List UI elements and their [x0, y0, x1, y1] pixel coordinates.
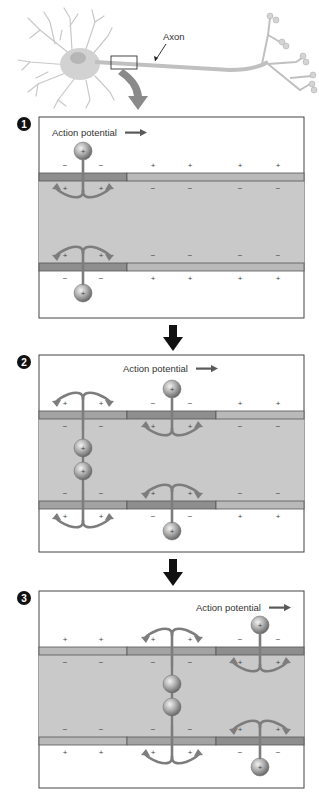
positive-charge: +	[276, 399, 281, 408]
positive-charge: +	[63, 184, 68, 193]
positive-charge: +	[63, 748, 68, 757]
positive-charge: +	[99, 748, 104, 757]
negative-charge: −	[63, 489, 68, 498]
negative-charge: −	[99, 422, 104, 431]
negative-charge: −	[151, 251, 156, 260]
negative-charge: −	[99, 725, 104, 734]
svg-text:+: +	[170, 527, 175, 536]
positive-charge: +	[63, 251, 68, 260]
ion-interior-upper: +	[74, 439, 92, 457]
negative-charge: −	[63, 658, 68, 667]
top-membrane-segment-resting	[216, 411, 304, 419]
down-arrow-icon	[163, 572, 183, 586]
positive-charge: +	[151, 748, 156, 757]
negative-charge: −	[188, 251, 193, 260]
positive-charge: +	[99, 635, 104, 644]
direction-arrow-icon	[125, 132, 141, 134]
axon-interior	[39, 181, 304, 263]
negative-charge: −	[188, 184, 193, 193]
direction-arrow-icon	[196, 368, 212, 370]
step-badge: 3	[17, 591, 31, 605]
positive-charge: +	[99, 184, 104, 193]
negative-charge: −	[99, 161, 104, 170]
action-potential-diagram: Axon 1Action potential−−++++++−−−−++−−−−…	[0, 0, 319, 793]
axon-label: Axon	[163, 31, 185, 42]
step-badge: 1	[17, 117, 31, 131]
panel-step-2: 2Action potential++−−++−−++−−−−++−−++−−+…	[17, 355, 304, 552]
svg-text:+: +	[81, 467, 86, 476]
negative-charge: −	[63, 725, 68, 734]
positive-charge: +	[238, 512, 243, 521]
negative-charge: −	[238, 489, 243, 498]
negative-charge: −	[276, 748, 281, 757]
ion-interior-lower	[163, 698, 181, 716]
negative-charge: −	[63, 161, 68, 170]
ion-interior-upper	[163, 675, 181, 693]
negative-charge: −	[151, 399, 156, 408]
top-membrane-segment-resting	[127, 173, 304, 181]
negative-charge: −	[238, 422, 243, 431]
negative-charge: −	[151, 512, 156, 521]
svg-text:+: +	[81, 147, 86, 156]
positive-charge: +	[188, 635, 193, 644]
step-transition-arrow-1-2	[163, 325, 183, 351]
positive-charge: +	[63, 399, 68, 408]
panels: 1Action potential−−++++++−−−−++−−−−−−+++…	[17, 117, 304, 788]
positive-charge: +	[276, 658, 281, 667]
terminal-boutons	[267, 13, 317, 93]
negative-charge: −	[188, 512, 193, 521]
negative-charge: −	[276, 251, 281, 260]
positive-charge: +	[276, 725, 281, 734]
positive-charge: +	[63, 512, 68, 521]
negative-charge: −	[276, 489, 281, 498]
negative-charge: −	[276, 635, 281, 644]
negative-charge: −	[188, 725, 193, 734]
bottom-membrane-segment-resting	[216, 501, 304, 509]
positive-charge: +	[238, 161, 243, 170]
positive-charge: +	[188, 422, 193, 431]
top-membrane-segment-resting	[39, 647, 127, 655]
action-potential-label: Action potential	[52, 127, 117, 138]
negative-charge: −	[238, 184, 243, 193]
positive-charge: +	[99, 251, 104, 260]
negative-charge: −	[276, 184, 281, 193]
action-potential-label: Action potential	[196, 602, 261, 613]
positive-charge: +	[99, 399, 104, 408]
positive-charge: +	[188, 161, 193, 170]
panel-step-3: 3Action potential++++−−−−−−++−−−−++++++−…	[17, 591, 304, 788]
step-number: 2	[21, 357, 27, 368]
negative-charge: −	[276, 422, 281, 431]
ion-interior-lower: +	[74, 462, 92, 480]
sodium-ion-outside-bottom: +	[163, 522, 181, 540]
diagram-canvas: Axon 1Action potential−−++++++−−−−++−−−−…	[0, 0, 319, 793]
positive-charge: +	[276, 512, 281, 521]
sodium-ion-outside-top: +	[74, 142, 92, 160]
positive-charge: +	[276, 161, 281, 170]
sodium-ion-outside-bottom: +	[251, 758, 269, 776]
magnify-arrow-icon	[118, 69, 148, 110]
neuron-illustration: Axon	[18, 8, 317, 110]
bottom-membrane-segment-resting	[39, 737, 127, 745]
panel-step-1: 1Action potential−−++++++−−−−++−−−−−−+++…	[17, 117, 304, 318]
positive-charge: +	[276, 274, 281, 283]
negative-charge: −	[238, 635, 243, 644]
negative-charge: −	[188, 658, 193, 667]
negative-charge: −	[63, 422, 68, 431]
svg-text:+: +	[170, 385, 175, 394]
svg-text:+: +	[258, 763, 263, 772]
svg-text:+: +	[258, 621, 263, 630]
step-number: 3	[21, 593, 27, 604]
svg-text:+: +	[81, 444, 86, 453]
sodium-ion-outside-bottom: +	[74, 284, 92, 302]
positive-charge: +	[99, 512, 104, 521]
positive-charge: +	[151, 274, 156, 283]
action-potential-label: Action potential	[123, 363, 188, 374]
nucleus	[70, 52, 86, 64]
positive-charge: +	[151, 161, 156, 170]
negative-charge: −	[151, 184, 156, 193]
negative-charge: −	[188, 399, 193, 408]
positive-charge: +	[188, 748, 193, 757]
bottom-membrane-segment-resting	[127, 263, 304, 271]
sodium-ion-outside-top: +	[163, 380, 181, 398]
step-transition-arrow-2-3	[163, 559, 183, 586]
